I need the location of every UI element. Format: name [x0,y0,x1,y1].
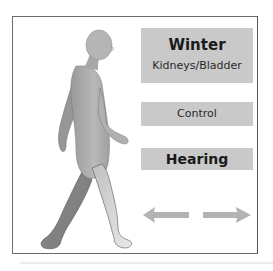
arrow-right-icon [203,207,251,223]
organs-label: Kidneys/Bladder [141,59,253,72]
season-label: Winter [141,36,253,54]
function-box: Control [141,102,253,126]
function-label: Control [177,107,217,120]
sense-label: Hearing [166,151,228,167]
arrows-group [141,205,253,225]
season-box: Winter Kidneys/Bladder [141,28,253,83]
sense-box: Hearing [141,148,253,170]
divider [20,262,273,264]
walking-figure-icon [14,18,136,252]
arrow-left-icon [143,207,189,223]
